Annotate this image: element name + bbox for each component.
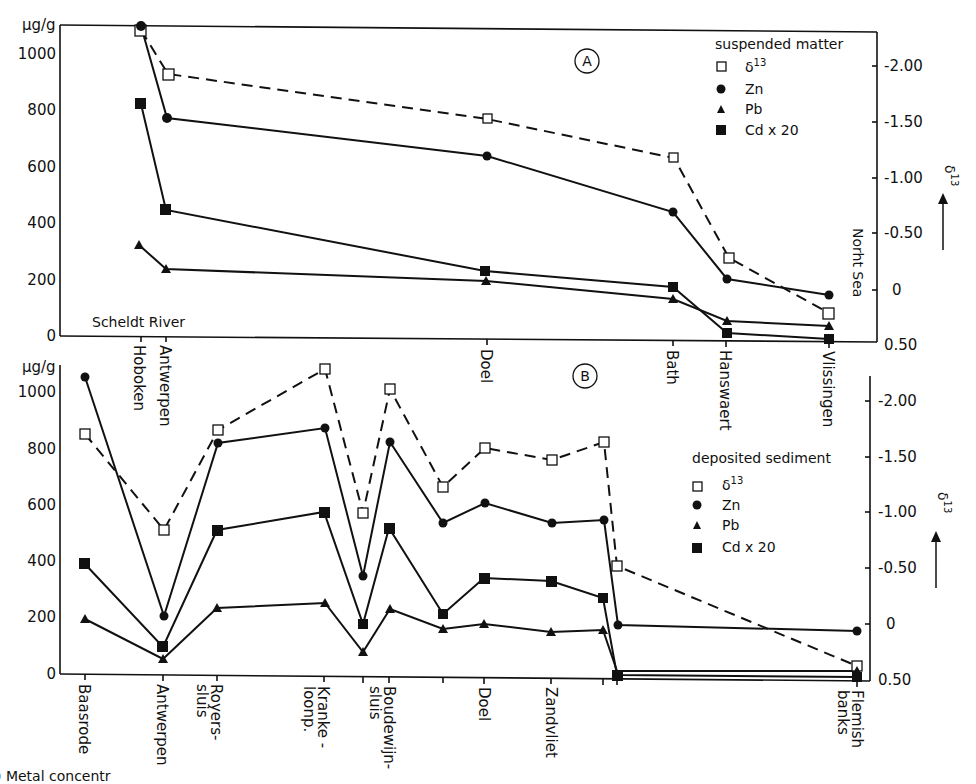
filled-square-icon [692, 543, 702, 553]
svg-text:loonp.: loonp. [300, 686, 318, 732]
svg-text:Bath: Bath [663, 350, 681, 385]
up-arrow-icon [931, 531, 941, 588]
svg-text:Antwerpen: Antwerpen [156, 345, 174, 427]
panel-b-series-zn [85, 377, 857, 631]
panel-a-category-labels: Hoboken Antwerpen Doel Bath Hanswaert Vl… [130, 345, 837, 431]
panel-b-legend: deposited sediment δ13 Zn Pb Cd x 20 [692, 450, 831, 555]
filled-square-icon [716, 125, 726, 135]
svg-text:-1.00: -1.00 [878, 503, 917, 521]
svg-text:0.50: 0.50 [884, 336, 917, 354]
panel-b-series-delta13 [85, 369, 857, 666]
svg-text:Norht Sea: Norht Sea [850, 228, 866, 297]
svg-text:0: 0 [46, 327, 56, 345]
up-arrow-icon [938, 193, 948, 250]
svg-text:B: B [580, 368, 590, 384]
panel-b-series-pb [85, 603, 857, 671]
svg-text:δ13: δ13 [722, 475, 743, 493]
svg-text:1000: 1000 [18, 45, 56, 63]
filled-triangle-icon [693, 521, 701, 529]
panel-a-series-cd [141, 104, 829, 339]
svg-text:0.50: 0.50 [878, 671, 911, 689]
panel-b-category-labels: Baasrode Antwerpen Royers- sluis Kranke … [75, 684, 866, 769]
svg-text:Baasrode: Baasrode [75, 684, 93, 754]
panel-b-badge: B [573, 364, 597, 388]
svg-text:δ13: δ13 [942, 165, 960, 186]
svg-text:Cd x 20: Cd x 20 [722, 539, 776, 555]
panel-a-legend: suspended matter δ13 Zn Pb Cd x 20 [715, 36, 843, 138]
svg-text:600: 600 [27, 496, 56, 514]
svg-text:200: 200 [27, 271, 56, 289]
legend-delta13: δ13 [745, 57, 766, 75]
filled-circle-icon [717, 85, 726, 94]
svg-text:1000: 1000 [18, 383, 56, 401]
svg-text:sluis: sluis [193, 684, 211, 718]
panel-a-unit-label: µg/g [22, 16, 56, 34]
panel-b-unit-label: µg/g [22, 358, 56, 376]
legend-cd: Cd x 20 [745, 122, 799, 138]
filled-triangle-icon [717, 105, 725, 113]
svg-text:-1.50: -1.50 [878, 448, 917, 466]
svg-text:Zandvliet: Zandvliet [542, 687, 560, 758]
svg-text:sluis: sluis [366, 686, 384, 720]
panel-a-bottom-axis [60, 336, 877, 342]
svg-text:-0.50: -0.50 [878, 559, 917, 577]
panel-a-delta-axis-label: δ13 [942, 165, 960, 186]
svg-text:-2.00: -2.00 [878, 392, 917, 410]
svg-text:0: 0 [886, 615, 896, 633]
svg-text:Hanswaert: Hanswaert [716, 350, 734, 431]
figure-canvas: µg/g 1000 800 600 400 200 0 -2.00 -1.50 … [0, 0, 976, 784]
svg-text:0: 0 [892, 281, 902, 299]
panel-a-markers [134, 21, 834, 344]
svg-text:200: 200 [27, 608, 56, 626]
panel-b-bottom-axis [60, 674, 870, 681]
svg-text:banks: banks [834, 690, 852, 735]
svg-text:-1.50: -1.50 [884, 113, 923, 131]
sea-annotation: Norht Sea [850, 228, 866, 297]
panel-a-top-border [60, 25, 877, 32]
svg-text:800: 800 [27, 440, 56, 458]
panel-b-series-cd [84, 512, 857, 677]
figure-caption: ) Metal concentr [0, 768, 111, 784]
panel-b-right-ticks: -2.00 -1.50 -1.00 -0.50 0 0.50 [865, 392, 917, 689]
svg-text:Pb: Pb [722, 517, 739, 533]
filled-circle-icon [693, 501, 702, 510]
svg-text:400: 400 [27, 552, 56, 570]
svg-text:A: A [582, 53, 592, 69]
open-square-icon [717, 62, 726, 71]
svg-text:Zn: Zn [722, 497, 740, 513]
legend-zn: Zn [745, 81, 763, 97]
svg-text:Hoboken: Hoboken [130, 345, 148, 411]
legend-pb: Pb [745, 101, 762, 117]
svg-text:0: 0 [46, 665, 56, 683]
svg-text:Vlissingen: Vlissingen [819, 351, 837, 427]
panel-a: µg/g 1000 800 600 400 200 0 -2.00 -1.50 … [18, 16, 960, 431]
svg-text:400: 400 [27, 214, 56, 232]
panel-a-badge: A [575, 49, 599, 73]
panel-a-left-ticks: 1000 800 600 400 200 0 [18, 45, 56, 345]
svg-text:Doel: Doel [475, 687, 493, 721]
svg-text:suspended matter: suspended matter [715, 36, 843, 52]
panel-b-delta-axis-label: δ13 [935, 492, 953, 513]
river-annotation: Scheldt River [92, 314, 185, 330]
panel-a-right-ticks: -2.00 -1.50 -1.00 -0.50 0 0.50 [872, 57, 923, 354]
svg-text:600: 600 [27, 158, 56, 176]
panel-b-markers [79, 364, 862, 682]
svg-text:deposited sediment: deposited sediment [692, 450, 831, 466]
svg-text:-1.00: -1.00 [884, 169, 923, 187]
panel-b-left-ticks: 1000 800 600 400 200 0 [18, 383, 56, 683]
open-square-icon [693, 482, 702, 491]
svg-text:Antwerpen: Antwerpen [153, 684, 171, 766]
svg-text:δ13: δ13 [935, 492, 953, 513]
svg-text:-0.50: -0.50 [884, 224, 923, 242]
svg-text:-2.00: -2.00 [884, 57, 923, 75]
svg-text:Doel: Doel [477, 349, 495, 383]
svg-text:800: 800 [27, 101, 56, 119]
